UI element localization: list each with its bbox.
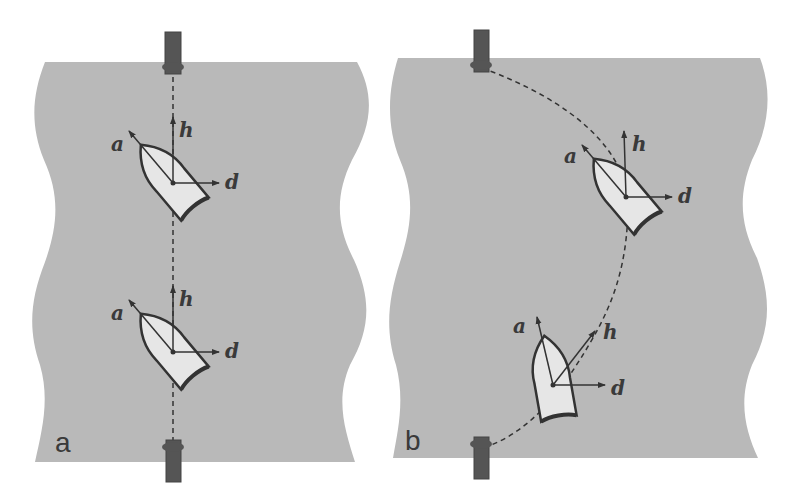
label-h: h (603, 320, 618, 344)
label-a: a (564, 144, 577, 168)
label-h: h (632, 132, 647, 156)
panel-label-b: b (405, 425, 421, 456)
label-d: d (225, 170, 239, 194)
pier-top-b (470, 30, 492, 72)
label-d: d (678, 184, 692, 208)
label-h: h (179, 118, 194, 142)
river-water-a (32, 62, 369, 462)
label-a: a (111, 301, 124, 325)
label-a: a (111, 132, 124, 156)
river-water-b (389, 58, 767, 458)
label-h: h (179, 287, 194, 311)
label-a: a (513, 314, 526, 338)
panel-b: a h d a h d b (389, 30, 767, 479)
label-d: d (611, 376, 625, 400)
panel-label-a: a (55, 427, 71, 458)
label-d: d (225, 339, 239, 363)
panel-a: a h d a h d a (32, 32, 369, 482)
pier-top-a (162, 32, 184, 74)
river-crossing-diagram: a h d a h d a (0, 0, 799, 503)
